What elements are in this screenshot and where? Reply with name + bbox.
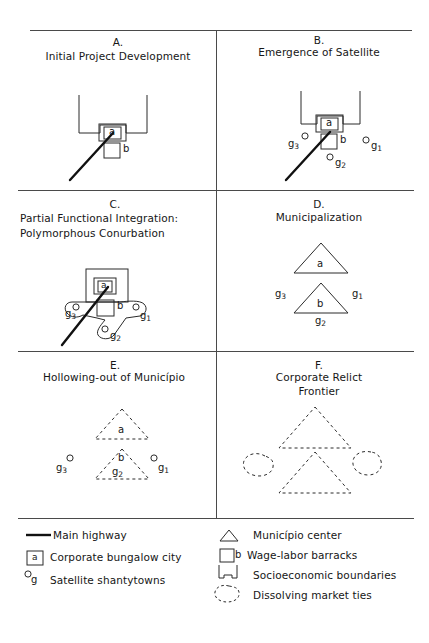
g-subscript: 1 bbox=[146, 314, 151, 323]
panel-b-label-a: a bbox=[326, 117, 332, 128]
panel-c-label-a: a bbox=[101, 280, 107, 290]
panel-e-label-a: a bbox=[118, 424, 124, 435]
legend-satellite-label: Satellite shantytowns bbox=[50, 574, 165, 586]
panel-d-label-a: a bbox=[317, 258, 323, 269]
panel-c-label-b: b bbox=[117, 300, 123, 311]
figure-root: A. Initial Project Development B. Emerge… bbox=[0, 0, 429, 643]
legend-barracks-square-icon bbox=[220, 549, 234, 562]
legend-dissolving-label: Dissolving market ties bbox=[253, 589, 372, 601]
panel-f-dashed-triangle-top bbox=[279, 407, 351, 448]
panel-e-label-g1: g1 bbox=[158, 462, 169, 475]
g-subscript: 2 bbox=[321, 319, 326, 328]
panel-c-corporate-area-rect bbox=[86, 269, 128, 302]
panel-b-satellite-g3-circle bbox=[302, 133, 308, 139]
g-subscript: 3 bbox=[71, 312, 76, 321]
g-subscript: 3 bbox=[294, 142, 299, 151]
panel-d-label-g2: g2 bbox=[315, 315, 326, 328]
panel-b-label-g1: g1 bbox=[371, 140, 382, 153]
panel-c-label-g1: g1 bbox=[140, 310, 151, 323]
panel-c-label-g2: g2 bbox=[110, 330, 121, 343]
panel-e-satellite-g3-circle bbox=[67, 455, 73, 461]
panel-a-label-b: b bbox=[123, 143, 129, 154]
panel-b-label-g2: g2 bbox=[335, 157, 346, 170]
g-subscript: 3 bbox=[62, 466, 67, 475]
legend-boundaries-label: Socioeconomic boundaries bbox=[253, 569, 396, 581]
g-subscript: 2 bbox=[118, 470, 123, 479]
g-subscript: 3 bbox=[281, 292, 286, 301]
legend-municipio-triangle-icon bbox=[220, 530, 238, 541]
panel-c-conurbation-outline bbox=[65, 301, 146, 339]
legend-boundary-bracket-icon bbox=[219, 565, 237, 578]
legend-barracks-label: Wage-labor barracks bbox=[247, 549, 357, 561]
legend-corporate-city-label: Corporate bungalow city bbox=[50, 551, 182, 563]
g-subscript: 1 bbox=[358, 292, 363, 301]
panel-b-satellite-g1-circle bbox=[363, 137, 369, 143]
panel-b-satellite-g2-circle bbox=[327, 154, 333, 160]
panel-b-barracks-square bbox=[321, 134, 337, 149]
diagram-artwork bbox=[0, 0, 429, 643]
panel-f-dissolving-blob-left bbox=[243, 454, 273, 476]
panel-a-highway-line bbox=[70, 133, 113, 180]
legend-barracks-letter: b bbox=[235, 549, 241, 560]
panel-e-label-b: b bbox=[118, 452, 124, 463]
panel-f-dashed-triangle-bottom bbox=[279, 452, 351, 493]
panel-e-label-g3: g3 bbox=[56, 462, 67, 475]
panel-d-label-b: b bbox=[317, 298, 323, 309]
g-subscript: 2 bbox=[341, 161, 346, 170]
panel-a-barracks-square bbox=[104, 143, 120, 158]
panel-d-label-g1: g1 bbox=[352, 288, 363, 301]
panel-c-satellite-g2-circle bbox=[102, 326, 108, 332]
g-subscript: 2 bbox=[116, 334, 121, 343]
g-subscript: 1 bbox=[164, 466, 169, 475]
panel-e-label-g2: g2 bbox=[112, 466, 123, 479]
legend-municipio-label: Município center bbox=[253, 529, 342, 541]
panel-e-satellite-g1-circle bbox=[151, 455, 157, 461]
g-subscript: 1 bbox=[377, 144, 382, 153]
legend-satellite-letter: g bbox=[31, 574, 37, 585]
legend-main-highway-label: Main highway bbox=[53, 529, 127, 541]
panel-b-label-g3: g3 bbox=[288, 138, 299, 151]
panel-d-label-g3: g3 bbox=[275, 288, 286, 301]
panel-c-satellite-g1-circle bbox=[133, 304, 139, 310]
legend-corporate-city-letter: a bbox=[32, 552, 38, 562]
panel-b-label-b: b bbox=[340, 134, 346, 145]
legend-dissolving-blob-icon bbox=[215, 585, 239, 602]
panel-c-label-g3: g3 bbox=[65, 308, 76, 321]
panel-f-dissolving-blob-right bbox=[353, 451, 381, 475]
panel-a-label-a: a bbox=[109, 126, 115, 137]
